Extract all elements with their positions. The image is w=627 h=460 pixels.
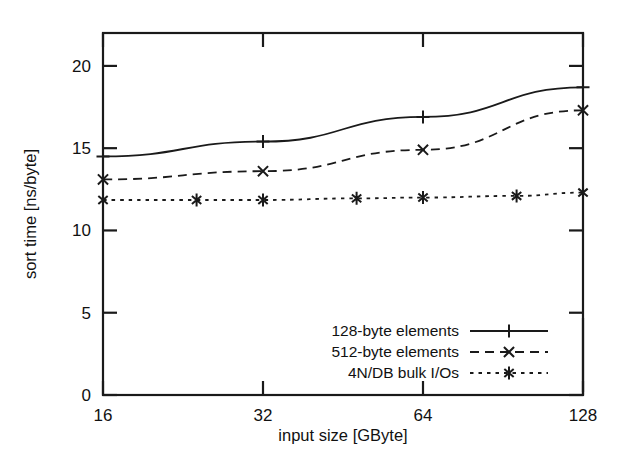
y-tick-label-0: 0	[82, 386, 91, 405]
series-0-point-0	[97, 150, 110, 163]
y-tick-label-20: 20	[72, 57, 91, 76]
legend: 128-byte elements 512-byte elements 4N/D…	[331, 318, 583, 392]
chart-svg: 05101520 163264128 input size [GByte] so…	[0, 0, 627, 460]
x-tick-label-32: 32	[254, 406, 273, 425]
legend-label-0: 128-byte elements	[331, 322, 459, 339]
x-axis-ticks: 163264128	[94, 33, 598, 425]
series-1	[98, 105, 588, 184]
series-layer	[97, 81, 590, 207]
series-line-2	[103, 193, 583, 200]
legend-label-2: 4N/DB bulk I/Os	[348, 364, 459, 381]
legend-label-1: 512-byte elements	[331, 343, 459, 360]
series-0-point-1	[257, 135, 270, 148]
series-line-1	[103, 110, 583, 179]
legend-sample-lines	[470, 318, 583, 392]
y-tick-label-15: 15	[72, 139, 91, 158]
plot-frame	[103, 33, 583, 395]
legend-marker-0	[503, 325, 516, 338]
series-0-point-2	[417, 110, 430, 123]
x-tick-label-16: 16	[94, 406, 113, 425]
x-axis-title: input size [GByte]	[278, 426, 407, 444]
y-tick-label-5: 5	[82, 304, 91, 323]
x-tick-label-128: 128	[569, 406, 597, 425]
chart-container: 05101520 163264128 input size [GByte] so…	[0, 0, 627, 460]
series-0-point-3	[577, 81, 590, 94]
series-0	[97, 81, 590, 163]
series-2	[98, 186, 587, 206]
y-axis-title: sort time [ns/byte]	[21, 149, 39, 279]
series-line-0	[103, 87, 583, 156]
y-tick-label-10: 10	[72, 221, 91, 240]
x-tick-label-64: 64	[414, 406, 433, 425]
